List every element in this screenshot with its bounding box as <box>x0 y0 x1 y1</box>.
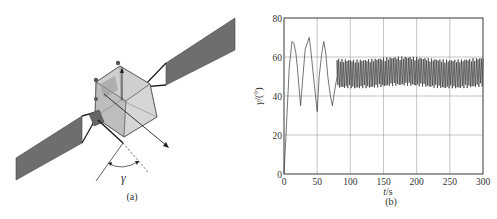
y-tick-label: 80 <box>273 14 283 24</box>
panel-b-label: (b) <box>385 196 397 208</box>
y-tick-label: 20 <box>273 131 283 141</box>
panel-a-label: (a) <box>126 191 137 203</box>
figure: γ (a) 050100150200250300020406080 t/s (b… <box>0 0 497 219</box>
gamma-symbol: γ <box>121 171 126 185</box>
x-tick-label: 100 <box>343 177 358 187</box>
chart: 050100150200250300020406080 <box>273 14 491 188</box>
x-tick-label: 250 <box>443 177 458 187</box>
x-tick-label: 50 <box>312 177 322 187</box>
angle-ray-left <box>96 143 123 181</box>
y-tick-label: 0 <box>277 170 282 180</box>
x-tick-label: 200 <box>410 177 425 187</box>
left-solar-panel <box>16 116 82 180</box>
y-axis-label: γ/(°) <box>253 87 265 104</box>
x-tick-label: 0 <box>282 177 287 187</box>
angle-arc <box>108 161 139 167</box>
angle-ray-dashed <box>123 143 148 172</box>
y-tick-label: 40 <box>273 92 283 102</box>
satellite-illustration: γ <box>16 18 235 185</box>
right-solar-panel <box>166 18 235 85</box>
x-tick-label: 300 <box>476 177 491 187</box>
y-tick-label: 60 <box>273 53 283 63</box>
